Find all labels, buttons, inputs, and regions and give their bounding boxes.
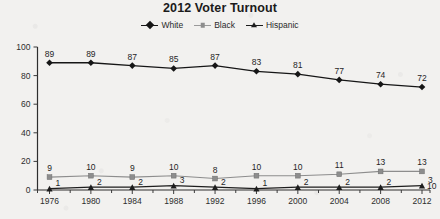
x-axis-tick-label: 2008 bbox=[371, 196, 390, 206]
x-axis-tick-label: 1988 bbox=[164, 196, 183, 206]
data-label-white: 89 bbox=[45, 49, 55, 59]
data-label-black: 13 bbox=[376, 157, 386, 167]
data-label-black: 10 bbox=[86, 162, 96, 172]
square-marker-icon bbox=[337, 172, 342, 177]
diamond-marker-icon bbox=[336, 77, 343, 84]
data-series-group bbox=[46, 59, 425, 191]
data-label-black: 9 bbox=[130, 163, 135, 173]
end-annotation-hispanic: 10 bbox=[427, 181, 437, 191]
y-axis-tick-label: 40 bbox=[21, 128, 31, 138]
y-axis-tick-label: 60 bbox=[21, 99, 31, 109]
data-label-white: 72 bbox=[417, 73, 427, 83]
y-axis-tick-label: 20 bbox=[21, 156, 31, 166]
data-label-white: 74 bbox=[376, 70, 386, 80]
square-marker-icon bbox=[47, 175, 52, 180]
data-label-white: 87 bbox=[210, 52, 220, 62]
data-label-hispanic: 2 bbox=[304, 177, 309, 187]
data-label-hispanic: 2 bbox=[97, 177, 102, 187]
series-line-black bbox=[50, 171, 423, 178]
diamond-marker-icon bbox=[129, 62, 136, 69]
x-axis-tick-label: 1976 bbox=[40, 196, 59, 206]
square-marker-icon bbox=[213, 176, 218, 181]
data-label-hispanic: 1 bbox=[262, 178, 267, 188]
data-label-hispanic: 2 bbox=[387, 177, 392, 187]
data-label-black: 11 bbox=[335, 160, 344, 170]
x-axis-tick-label: 2000 bbox=[288, 196, 307, 206]
data-label-white: 87 bbox=[128, 52, 138, 62]
data-label-white: 85 bbox=[169, 54, 179, 64]
diamond-marker-icon bbox=[295, 71, 302, 78]
diamond-marker-icon bbox=[419, 84, 426, 91]
square-marker-icon bbox=[130, 175, 135, 180]
data-label-black: 13 bbox=[417, 157, 427, 167]
data-label-white: 77 bbox=[334, 66, 344, 76]
x-axis-tick-label: 1996 bbox=[247, 196, 266, 206]
series-line-hispanic bbox=[50, 186, 423, 189]
square-marker-icon bbox=[295, 173, 300, 178]
x-axis-tick-label: 2004 bbox=[330, 196, 349, 206]
y-axis-tick-label: 0 bbox=[26, 185, 31, 195]
diamond-marker-icon bbox=[170, 65, 177, 72]
data-labels-group: 8989878587838177747291091081010111313122… bbox=[45, 49, 437, 191]
x-axis-tick-label: 1992 bbox=[206, 196, 225, 206]
data-label-hispanic: 3 bbox=[180, 175, 185, 185]
diamond-marker-icon bbox=[46, 59, 53, 66]
data-label-black: 10 bbox=[293, 162, 303, 172]
square-marker-icon bbox=[171, 173, 176, 178]
x-axis-tick-label: 1980 bbox=[81, 196, 100, 206]
data-label-black: 9 bbox=[47, 163, 52, 173]
diamond-marker-icon bbox=[253, 68, 260, 75]
square-marker-icon bbox=[254, 173, 259, 178]
data-label-black: 8 bbox=[213, 165, 218, 175]
series-line-white bbox=[50, 63, 423, 87]
y-axis-tick-label: 100 bbox=[16, 42, 30, 52]
data-label-hispanic: 2 bbox=[345, 177, 350, 187]
square-marker-icon bbox=[378, 169, 383, 174]
diamond-marker-icon bbox=[212, 62, 219, 69]
chart-screenshot: 2012 Voter Turnout White Black Hispanic … bbox=[0, 0, 440, 219]
square-marker-icon bbox=[88, 173, 93, 178]
y-axis-tick-label: 80 bbox=[21, 71, 31, 81]
data-label-white: 81 bbox=[293, 60, 303, 70]
chart-plot-area: 020406080100 197619801984198819921996200… bbox=[0, 0, 440, 219]
diamond-marker-icon bbox=[377, 81, 384, 88]
data-label-hispanic: 1 bbox=[56, 178, 61, 188]
x-axis-tick-label: 2012 bbox=[413, 196, 432, 206]
data-label-black: 10 bbox=[252, 162, 262, 172]
y-axis: 020406080100 bbox=[16, 42, 37, 195]
square-marker-icon bbox=[420, 169, 425, 174]
data-label-hispanic: 2 bbox=[221, 177, 226, 187]
x-axis: 1976198019841988199219962000200420082012 bbox=[38, 190, 432, 206]
data-label-white: 89 bbox=[86, 49, 96, 59]
x-axis-tick-label: 1984 bbox=[123, 196, 142, 206]
data-label-white: 83 bbox=[252, 57, 262, 67]
data-label-hispanic: 2 bbox=[138, 177, 143, 187]
data-label-black: 10 bbox=[169, 162, 179, 172]
diamond-marker-icon bbox=[88, 59, 95, 66]
